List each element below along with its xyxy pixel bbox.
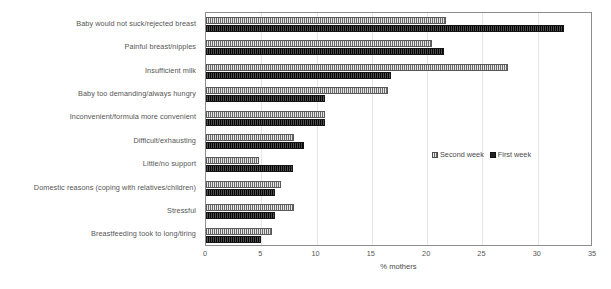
chart-legend: Second weekFirst week xyxy=(432,150,531,159)
x-tick-label: 30 xyxy=(533,249,541,258)
bar-first-week xyxy=(206,236,261,243)
bar-group xyxy=(206,13,593,36)
bar-second-week xyxy=(206,111,325,118)
bar-group xyxy=(206,177,593,200)
category-label: Little/no support xyxy=(0,159,196,168)
category-label: Painful breast/nipples xyxy=(0,42,196,51)
bar-group xyxy=(206,83,593,106)
bar-second-week xyxy=(206,204,294,211)
category-label: Inconvenient/formula more convenient xyxy=(0,112,196,121)
category-label: Domestic reasons (coping with relatives/… xyxy=(0,183,196,192)
x-tick-label: 5 xyxy=(258,249,262,258)
bar-first-week xyxy=(206,142,304,149)
x-tick-label: 20 xyxy=(422,249,430,258)
x-tick-label: 25 xyxy=(477,249,485,258)
bar-first-week xyxy=(206,72,391,79)
bar-first-week xyxy=(206,25,564,32)
legend-entry: Second week xyxy=(432,150,484,159)
bar-group xyxy=(206,107,593,130)
x-tick-label: 10 xyxy=(312,249,320,258)
legend-swatch-icon xyxy=(432,152,438,158)
category-axis: Baby would not suck/rejected breastPainf… xyxy=(0,12,201,246)
bar-group xyxy=(206,224,593,247)
bar-second-week xyxy=(206,134,294,141)
bar-second-week xyxy=(206,64,508,71)
bar-group xyxy=(206,130,593,153)
x-axis: 05101520253035 xyxy=(205,246,592,262)
bar-second-week xyxy=(206,157,259,164)
category-label: Stressful xyxy=(0,206,196,215)
bar-first-week xyxy=(206,119,325,126)
x-axis-title: % mothers xyxy=(205,262,592,271)
plot-area xyxy=(205,12,592,246)
legend-label: First week xyxy=(498,150,531,159)
x-tick-label: 0 xyxy=(203,249,207,258)
category-label: Baby too demanding/always hungry xyxy=(0,89,196,98)
bar-second-week xyxy=(206,40,432,47)
bar-second-week xyxy=(206,181,281,188)
bar-second-week xyxy=(206,17,446,24)
bar-group xyxy=(206,200,593,223)
x-tick-label: 35 xyxy=(588,249,596,258)
bar-group xyxy=(206,36,593,59)
bar-first-week xyxy=(206,189,275,196)
category-label: Baby would not suck/rejected breast xyxy=(0,19,196,28)
legend-swatch-icon xyxy=(490,152,496,158)
bar-group xyxy=(206,153,593,176)
bar-group xyxy=(206,60,593,83)
category-label: Breastfeeding took to long/tiring xyxy=(0,229,196,238)
plot-inner xyxy=(206,13,591,245)
bar-chart: Baby would not suck/rejected breastPainf… xyxy=(0,0,611,289)
x-tick-label: 15 xyxy=(367,249,375,258)
bar-first-week xyxy=(206,48,444,55)
category-label: Insufficient milk xyxy=(0,66,196,75)
bar-first-week xyxy=(206,212,275,219)
legend-label: Second week xyxy=(440,150,484,159)
category-label: Difficult/exhausting xyxy=(0,136,196,145)
legend-entry: First week xyxy=(490,150,531,159)
bar-first-week xyxy=(206,95,325,102)
bar-second-week xyxy=(206,228,272,235)
bar-first-week xyxy=(206,165,293,172)
bar-second-week xyxy=(206,87,388,94)
